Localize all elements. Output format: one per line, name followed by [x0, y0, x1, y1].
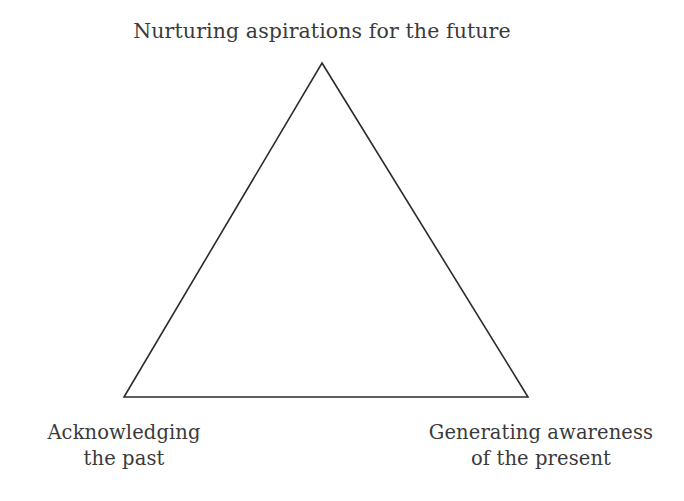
- label-bottom-right-generating-awareness: Generating awareness of the present: [421, 420, 661, 471]
- label-apex-nurturing-aspirations: Nurturing aspirations for the future: [0, 18, 645, 45]
- triangle-outline: [124, 63, 528, 397]
- diagram-canvas: Nurturing aspirations for the future Ack…: [0, 0, 684, 501]
- label-bottom-left-acknowledging-the-past: Acknowledging the past: [14, 420, 234, 471]
